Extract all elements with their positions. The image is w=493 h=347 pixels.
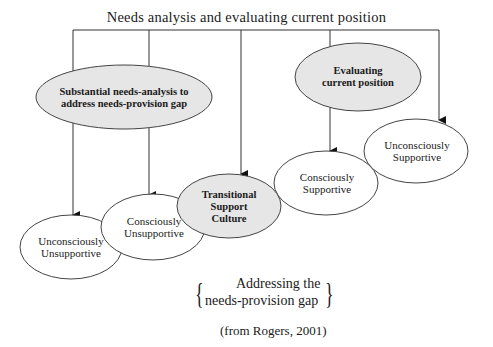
label-text: Substantial needs-analysis to address ne… bbox=[56, 86, 192, 110]
caption-line-2: needs-provision gap bbox=[205, 293, 318, 309]
label-text: Unconsciously Unsupportive bbox=[30, 235, 112, 259]
caption-line-1: Addressing the bbox=[236, 276, 320, 292]
label-consciously-unsupportive: Consciously Unsupportive bbox=[114, 214, 194, 240]
label-text: Consciously Supportive bbox=[290, 171, 364, 195]
label-evaluating-current-position: Evaluating current position bbox=[318, 64, 398, 90]
label-unconsciously-supportive: Unconsciously Supportive bbox=[376, 138, 458, 164]
label-text: Transitional Support Culture bbox=[196, 189, 262, 225]
label-consciously-supportive: Consciously Supportive bbox=[290, 170, 364, 196]
right-brace: } bbox=[325, 278, 334, 308]
diagram-title: Needs analysis and evaluating current po… bbox=[0, 9, 493, 26]
source-citation: (from Rogers, 2001) bbox=[220, 323, 327, 339]
left-brace: { bbox=[195, 278, 204, 308]
label-text: Unconsciously Supportive bbox=[376, 139, 458, 163]
label-unconsciously-unsupportive: Unconsciously Unsupportive bbox=[30, 234, 112, 260]
label-text: Evaluating current position bbox=[318, 65, 398, 89]
label-substantial-needs-analysis: Substantial needs-analysis to address ne… bbox=[56, 80, 192, 116]
label-transitional-support-culture: Transitional Support Culture bbox=[196, 188, 262, 226]
label-text: Consciously Unsupportive bbox=[114, 215, 194, 239]
